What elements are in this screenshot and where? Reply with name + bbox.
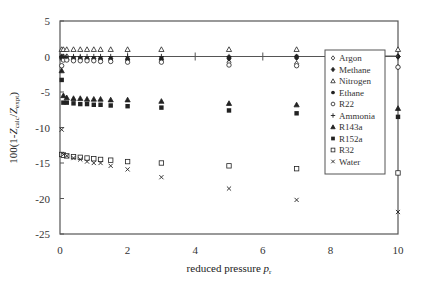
legend-label: Argon (339, 53, 362, 63)
legend-label: Ammonia (339, 111, 375, 121)
marker-square-filled (78, 102, 82, 106)
x-tick-label: 0 (57, 244, 63, 256)
marker-circle-open (294, 64, 298, 68)
marker-square-open (108, 158, 112, 162)
x-axis-title: reduced pressure pr (187, 262, 272, 276)
y-tick-label: -25 (35, 228, 50, 240)
marker-square-filled (59, 78, 63, 82)
marker-square-open (331, 148, 335, 152)
marker-circle-open (227, 63, 231, 67)
marker-square-filled (65, 100, 69, 104)
marker-square-filled (331, 137, 335, 141)
marker-circle-open (108, 59, 112, 63)
legend-label: Nitrogen (339, 76, 371, 86)
marker-circle-open (159, 60, 163, 64)
legend-label: R32 (339, 145, 354, 155)
x-tick-label: 2 (125, 244, 131, 256)
legend-label: Water (339, 157, 360, 167)
marker-circle-open (78, 59, 82, 63)
x-tick-label: 4 (192, 244, 198, 256)
legend-label: R152a (339, 134, 363, 144)
marker-square-open (159, 161, 163, 165)
marker-square-filled (294, 111, 298, 115)
marker-square-open (227, 164, 231, 168)
marker-square-open (396, 171, 400, 175)
x-tick-label: 10 (393, 244, 405, 256)
y-tick-label: -10 (35, 122, 50, 134)
marker-square-filled (125, 104, 129, 108)
marker-circle-open (85, 59, 89, 63)
marker-circle-open (125, 60, 129, 64)
marker-circle-open (98, 59, 102, 63)
x-tick-label: 6 (260, 244, 266, 256)
marker-square-open (92, 157, 96, 161)
x-tick-label: 8 (328, 244, 334, 256)
y-tick-label: -15 (35, 157, 50, 169)
y-tick-label: 5 (45, 15, 51, 27)
marker-circle-open (331, 102, 335, 106)
marker-square-filled (396, 115, 400, 119)
marker-square-filled (98, 103, 102, 107)
marker-circle-open (71, 59, 75, 63)
marker-square-filled (85, 102, 89, 106)
legend-label: Methane (339, 65, 371, 75)
marker-circle-filled (331, 91, 335, 95)
legend-label: R22 (339, 99, 354, 109)
legend-label: R143a (339, 122, 363, 132)
legend-label: Ethane (339, 88, 364, 98)
marker-square-open (125, 159, 129, 163)
marker-square-filled (159, 105, 163, 109)
marker-circle-open (92, 59, 96, 63)
marker-square-filled (92, 103, 96, 107)
y-tick-label: -5 (41, 86, 51, 98)
marker-square-filled (108, 103, 112, 107)
marker-square-filled (71, 101, 75, 105)
marker-circle-open (396, 65, 400, 69)
y-tick-label: -20 (35, 193, 50, 205)
marker-square-filled (227, 108, 231, 112)
marker-square-open (294, 166, 298, 170)
y-tick-label: 0 (45, 51, 51, 63)
scatter-chart: 50-5-10-15-20-25 0246810 reduced pressur… (0, 0, 422, 289)
